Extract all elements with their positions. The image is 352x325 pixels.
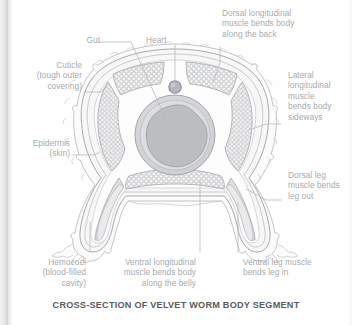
label-ventral-leg-muscle: Ventral leg muscle bends leg in (243, 257, 347, 278)
label-dorsal-longitudinal-muscle: Dorsal longitudinal muscle bends body al… (222, 8, 342, 39)
label-dorsal-leg-muscle: Dorsal leg muscle bends leg out (288, 170, 352, 201)
figure-page: Gut Heart Dorsal longitudinal muscle ben… (0, 0, 352, 325)
heart-vessel (169, 81, 181, 93)
label-heart: Heart (146, 35, 206, 45)
label-cuticle: Cuticle (tough outer covering) (6, 60, 82, 91)
label-epidermis: Epidermis (skin) (6, 138, 70, 159)
label-gut: Gut (28, 35, 100, 45)
label-lateral-longitudinal-muscle: Lateral longitudinal muscle bends body s… (288, 70, 352, 122)
label-hemocoel: Hemocoel (blood-filled cavity) (14, 257, 86, 288)
label-ventral-longitudinal-muscle: Ventral longitudinal muscle bends body a… (100, 257, 196, 288)
figure-caption: CROSS-SECTION OF VELVET WORM BODY SEGMEN… (0, 300, 352, 310)
